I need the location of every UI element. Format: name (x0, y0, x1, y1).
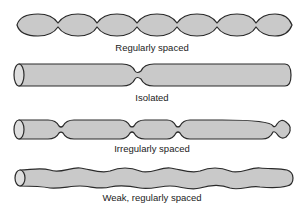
label-irregularly-spaced: Irregularly spaced (0, 143, 304, 154)
label-weak-regularly-spaced: Weak, regularly spaced (0, 192, 304, 203)
weak-regularly-spaced-fiber (15, 168, 293, 189)
isolated-neck-fiber (14, 64, 291, 86)
label-isolated: Isolated (0, 92, 304, 103)
necking-patterns-diagram (0, 0, 304, 208)
regularly-spaced-fiber (17, 14, 292, 36)
label-regularly-spaced: Regularly spaced (0, 42, 304, 53)
irregularly-spaced-fiber (14, 120, 290, 139)
